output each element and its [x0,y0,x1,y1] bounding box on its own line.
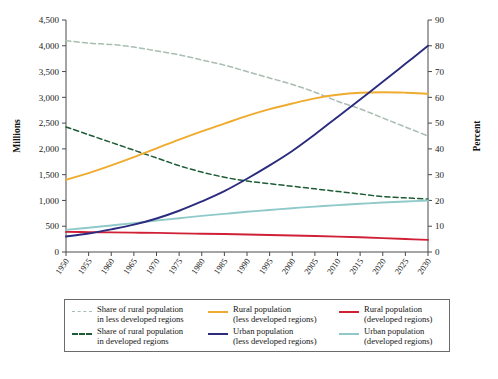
series-line [66,46,428,237]
y-axis-tick-label: 500 [46,221,60,231]
x-axis-tick-label: 2005 [302,256,320,276]
x-axis-tick-label: 2025 [393,256,411,276]
legend-swatch-icon [72,328,92,340]
y-axis-tick-label: 4,500 [39,15,60,25]
y2-axis-title: Percent [472,120,482,152]
chart-legend: Share of rural populationin less develop… [64,299,450,352]
figure-caption [4,367,334,379]
x-axis-tick-label: 1980 [189,256,207,276]
y-axis-tick-label: 3,500 [39,67,60,77]
x-axis-tick-label: 1985 [212,256,230,276]
legend-swatch-icon [208,306,228,318]
legend-item: Share of rural populationin less develop… [72,305,208,324]
legend-label: Urban population(developed regions) [364,327,433,346]
x-axis-tick-label: 1955 [76,256,94,276]
legend-label-line2: in developed regions [97,337,183,347]
y2-axis-tick-label: 70 [435,67,445,77]
x-axis-tick-label: 2030 [415,256,433,276]
legend-item: Rural population(developed regions) [339,305,458,324]
series-line [66,232,428,240]
y2-axis-tick-label: 0 [435,247,440,257]
x-axis-tick-label: 1960 [98,256,116,276]
y2-axis-tick-label: 80 [435,41,445,51]
y2-axis-tick-label: 90 [435,15,445,25]
x-axis-tick-label: 1970 [144,256,162,276]
y2-axis-tick-label: 20 [435,196,445,206]
legend-swatch-icon [72,306,92,318]
legend-label-line2: in less developed regions [97,315,184,325]
y-axis-tick-label: 1,500 [39,170,60,180]
legend-label: Share of rural populationin developed re… [97,327,183,346]
x-axis-tick-label: 2010 [325,256,343,276]
legend-swatch-icon [339,306,359,318]
y-axis-tick-label: 4,000 [39,41,60,51]
legend-item: Share of rural populationin developed re… [72,327,208,346]
legend-item: Urban population(developed regions) [339,327,458,346]
legend-swatch-icon [339,328,359,340]
legend-label-line2: (less developed regions) [233,315,317,325]
figure: 05001,0001,5002,0002,5003,0003,5004,0004… [0,0,498,379]
y2-axis-tick-label: 30 [435,170,445,180]
legend-item: Urban population(less developed regions) [208,327,339,346]
x-axis-tick-label: 1975 [166,256,184,276]
y2-axis-tick-label: 40 [435,144,445,154]
legend-label: Urban population(less developed regions) [233,327,317,346]
x-axis-tick-label: 2000 [279,256,297,276]
legend-label: Rural population(developed regions) [364,305,433,324]
y2-axis-tick-label: 60 [435,93,445,103]
y-axis-title: Millions [12,119,22,153]
legend-label: Share of rural populationin less develop… [97,305,184,324]
y2-axis-tick-label: 50 [435,118,445,128]
x-axis-tick-label: 1965 [121,256,139,276]
y-axis-tick-label: 2,500 [39,118,60,128]
y-axis-tick-label: 2,000 [39,144,60,154]
legend-label-line2: (developed regions) [364,337,433,347]
legend-label-line2: (developed regions) [364,315,433,325]
legend-label: Rural population(less developed regions) [233,305,317,324]
y-axis-tick-label: 3,000 [39,93,60,103]
legend-item: Rural population(less developed regions) [208,305,339,324]
legend-swatch-icon [208,328,228,340]
x-axis-tick-label: 2015 [347,256,365,276]
y-axis-tick-label: 0 [55,247,60,257]
line-chart: 05001,0001,5002,0002,5003,0003,5004,0004… [0,0,498,300]
y2-axis-tick-label: 10 [435,221,445,231]
x-axis-tick-label: 2020 [370,256,388,276]
x-axis-tick-label: 1995 [257,256,275,276]
x-axis-tick-label: 1990 [234,256,252,276]
legend-label-line2: (less developed regions) [233,337,317,347]
x-axis-tick-label: 1950 [53,256,71,276]
series-line [66,92,428,180]
y-axis-tick-label: 1,000 [39,196,60,206]
series-line [66,200,428,229]
